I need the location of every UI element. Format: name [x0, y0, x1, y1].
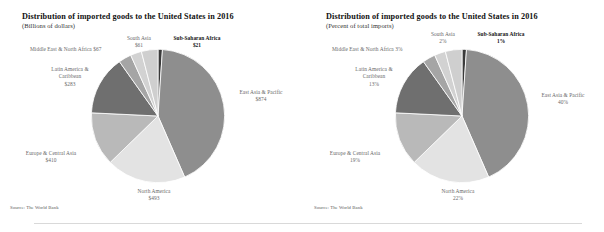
pie-svg-billions: [90, 48, 226, 184]
pie-chart-percent[interactable]: [394, 48, 530, 184]
pie-label-north-america-value: $493: [123, 195, 185, 202]
pie-label-sub-saharan-value: 1%: [464, 38, 538, 45]
source-note: Source: The World Bank: [10, 205, 59, 210]
pie-label-north-america-text: North America: [442, 188, 475, 194]
pie-label-europe-text: Europe & Central Asia: [330, 150, 380, 156]
pie-label-latin-america-line1: Latin America &: [355, 66, 392, 72]
pie-label-latin-america-value: $283: [38, 81, 102, 88]
pie-label-north-america-value: 22%: [427, 195, 489, 202]
pie-label-east-asia-text: East Asia & Pacific: [239, 89, 282, 95]
pie-label-sub-saharan-value: $21: [160, 42, 234, 49]
pie-svg-percent: [394, 48, 530, 184]
pie-label-sub-saharan-text: Sub-Saharan Africa: [174, 35, 221, 41]
figure-page: Distribution of imported goods to the Un…: [0, 0, 604, 232]
pie-label-south-asia-text: South Asia: [431, 31, 455, 37]
pie-label-latin-america: Latin America & Caribbean $283: [38, 66, 102, 88]
pie-label-europe-text: Europe & Central Asia: [26, 150, 76, 156]
pie-label-europe-value: 19%: [314, 157, 396, 164]
chart-subtitle-percent: (Percent of total imports): [326, 22, 394, 29]
page-title: Distribution of imported goods to the Un…: [22, 12, 290, 21]
pie-label-latin-america-line2: Caribbean: [38, 73, 102, 80]
pie-label-latin-america-line1: Latin America &: [51, 66, 88, 72]
pie-label-europe-central-asia: Europe & Central Asia $410: [10, 150, 92, 165]
pie-label-sub-saharan-text: Sub-Saharan Africa: [478, 31, 525, 37]
pie-label-east-asia-value: 40%: [530, 99, 596, 106]
pie-label-europe-central-asia: Europe & Central Asia 19%: [314, 150, 396, 165]
pie-label-south-asia: South Asia 2%: [422, 31, 464, 46]
pie-label-middle-east-text: Middle East & North Africa 3%: [332, 46, 402, 52]
pie-label-east-asia: East Asia & Pacific $874: [228, 89, 294, 104]
pie-label-south-asia-value: 2%: [422, 38, 464, 45]
pie-label-middle-east: Middle East & North Africa 3%: [332, 46, 444, 53]
pie-label-north-america-text: North America: [138, 188, 171, 194]
pie-label-middle-east: Middle East & North Africa $67: [30, 46, 138, 53]
pie-label-north-america: North America 22%: [427, 188, 489, 203]
pie-label-latin-america: Latin America & Caribbean 13%: [342, 66, 406, 88]
pie-label-europe-value: $410: [10, 157, 92, 164]
page-title-percent: Distribution of imported goods to the Un…: [326, 12, 594, 21]
pie-label-latin-america-line2: Caribbean: [342, 73, 406, 80]
pie-label-east-asia: East Asia & Pacific 40%: [530, 92, 596, 107]
pie-label-east-asia-value: $874: [228, 96, 294, 103]
pie-label-sub-saharan: Sub-Saharan Africa $21: [160, 35, 234, 50]
chart-subtitle: (Billions of dollars): [22, 22, 75, 29]
pie-label-middle-east-text: Middle East & North Africa $67: [30, 46, 101, 52]
pie-label-latin-america-value: 13%: [342, 81, 406, 88]
pie-label-sub-saharan: Sub-Saharan Africa 1%: [464, 31, 538, 46]
pie-chart-billions[interactable]: [90, 48, 226, 184]
pie-label-east-asia-text: East Asia & Pacific: [541, 92, 584, 98]
pie-label-south-asia-text: South Asia: [127, 35, 151, 41]
source-note-percent: Source: The World Bank: [314, 205, 363, 210]
footer-divider: [34, 223, 582, 224]
chart-panel-billions: Distribution of imported goods to the Un…: [0, 0, 302, 232]
pie-label-north-america: North America $493: [123, 188, 185, 203]
chart-panel-percent: Distribution of imported goods to the Un…: [302, 0, 604, 232]
